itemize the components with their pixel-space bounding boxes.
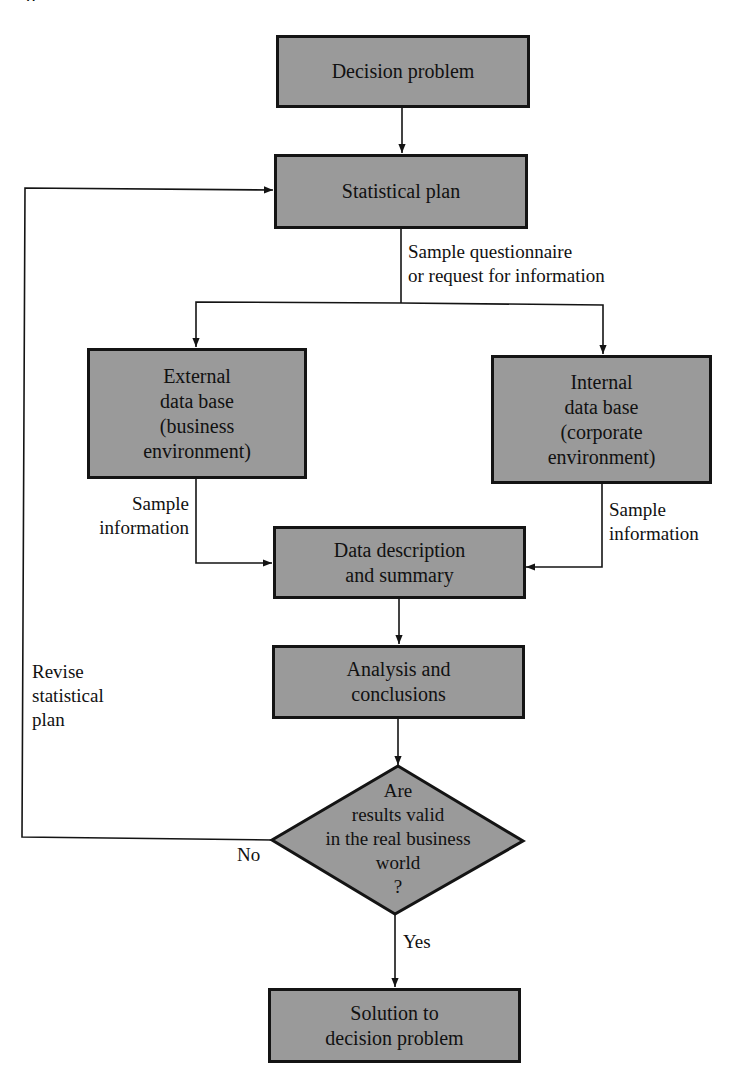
- node-statistical-plan: Statistical plan: [274, 154, 528, 229]
- node-text: Are: [298, 779, 498, 803]
- node-text: ?: [298, 875, 498, 899]
- label-line: Sample: [94, 492, 189, 516]
- label-line: or request for information: [408, 264, 605, 288]
- label-line: No: [237, 844, 260, 865]
- label-line: Revise: [32, 660, 104, 684]
- node-text: Statistical plan: [342, 179, 460, 204]
- label-line: Sample questionnaire: [408, 240, 605, 264]
- node-text: Analysis and: [347, 657, 451, 682]
- node-text: Solution to: [350, 1001, 438, 1026]
- label-sample-info-right: Sample information: [609, 498, 699, 546]
- label-line: statistical: [32, 684, 104, 708]
- node-data-description: Data description and summary: [273, 526, 526, 599]
- label-yes: Yes: [403, 930, 431, 954]
- edge-internal-to-data: [526, 484, 602, 567]
- label-line: Yes: [403, 931, 431, 952]
- node-text: and summary: [345, 563, 453, 588]
- node-text: decision problem: [325, 1026, 463, 1051]
- edge-branch-to-external: [196, 302, 401, 347]
- edge-branch-to-internal: [401, 303, 603, 354]
- label-questionnaire: Sample questionnaire or request for info…: [408, 240, 605, 288]
- label-line: information: [609, 522, 699, 546]
- label-line: information: [94, 516, 189, 540]
- node-text: in the real business: [298, 827, 498, 851]
- node-text: results valid: [298, 803, 498, 827]
- node-text: data base: [565, 395, 639, 420]
- node-validity-check: Are results valid in the real business w…: [298, 779, 498, 899]
- node-text: world: [298, 851, 498, 875]
- label-line: plan: [32, 708, 104, 732]
- node-internal-database: Internal data base (corporate environmen…: [491, 355, 712, 484]
- node-text: Decision problem: [332, 59, 475, 84]
- node-text: External: [163, 364, 231, 389]
- node-text: (corporate: [560, 420, 642, 445]
- node-solution: Solution to decision problem: [268, 988, 521, 1063]
- node-text: (business: [160, 414, 234, 439]
- node-text: environment): [143, 439, 251, 464]
- edge-external-to-data: [196, 479, 272, 563]
- node-analysis-conclusions: Analysis and conclusions: [272, 645, 525, 719]
- label-no: No: [237, 843, 260, 867]
- label-revise-plan: Revise statistical plan: [32, 660, 104, 732]
- node-text: Internal: [570, 370, 632, 395]
- node-text: environment): [548, 445, 656, 470]
- label-line: Sample: [609, 498, 699, 522]
- node-decision-problem: Decision problem: [276, 35, 530, 108]
- node-text: data base: [160, 389, 234, 414]
- node-text: Data description: [334, 538, 466, 563]
- label-sample-info-left: Sample information: [94, 492, 189, 540]
- node-external-database: External data base (business environment…: [87, 348, 307, 479]
- node-text: conclusions: [351, 682, 445, 707]
